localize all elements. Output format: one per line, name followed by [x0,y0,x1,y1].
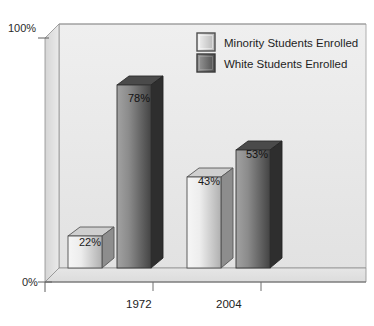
bar-side-face [270,141,282,268]
bar-side-face [221,168,233,268]
y-axis-tick-label-bottom: 0% [22,277,38,288]
legend-swatch-white [197,54,215,72]
bar-value-label-1972-white: 78% [128,93,150,104]
y-axis-tick-label-top: 100% [8,23,36,34]
bar-chart: 100% 0% 1972 2004 22% 78% 43% 53% Minori… [0,0,374,326]
bar-1972-white [117,76,163,268]
bar-value-label-2004-white: 53% [246,149,268,160]
bar-front-face [236,150,270,268]
bar-value-label-2004-minority: 43% [198,176,220,187]
legend-label-minority: Minority Students Enrolled [224,38,358,50]
legend-label-white: White Students Enrolled [224,59,347,71]
legend-swatch-minority [197,33,215,51]
bar-2004-white [236,141,282,268]
bar-value-label-1972-minority: 22% [79,237,101,248]
x-axis-category-label-2004: 2004 [216,299,242,311]
bar-side-face [151,76,163,268]
bar-front-face [187,177,221,268]
x-axis-category-label-1972: 1972 [126,299,152,311]
plot-left-wall [45,24,59,282]
bar-front-face [117,85,151,268]
plot-floor [45,268,366,282]
